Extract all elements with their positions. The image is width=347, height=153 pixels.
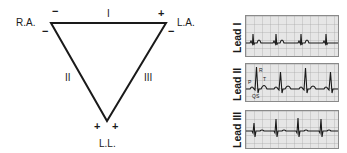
minus-sign-ra-top: − <box>52 6 58 17</box>
label-right-arm: R.A. <box>16 18 35 28</box>
label-lead-ii-side: II <box>65 73 71 83</box>
minus-sign-la-right: − <box>168 26 174 37</box>
ecg-strip-lead-i <box>245 15 339 57</box>
plus-sign-ll-right: + <box>112 121 118 132</box>
plus-sign-ll-left: + <box>94 121 100 132</box>
ecg-strip-lead-iii <box>245 110 339 149</box>
minus-sign-ra-left: − <box>42 26 48 37</box>
label-lead-i-side: I <box>107 9 110 19</box>
ecg-strip-lead-ii: R P T QS <box>245 63 339 102</box>
label-left-arm: L.A. <box>177 18 195 28</box>
label-left-leg: L.L. <box>99 139 116 149</box>
plus-sign-la-top: + <box>158 8 164 19</box>
lead-iii-label: Lead III <box>231 112 243 148</box>
lead-ii-label: Lead II <box>231 68 243 101</box>
wave-label-t: T <box>263 76 266 82</box>
wave-label-qs: QS <box>252 93 260 99</box>
wave-label-r: R <box>259 67 263 73</box>
label-lead-iii-side: III <box>144 73 152 83</box>
lead-i-label: Lead I <box>231 23 243 53</box>
